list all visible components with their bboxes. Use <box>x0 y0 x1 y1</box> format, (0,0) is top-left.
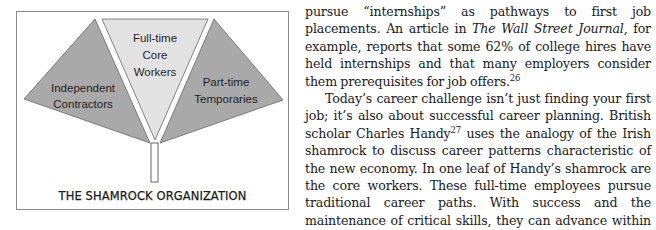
leaf-label-independent: Independent <box>51 82 116 94</box>
paragraph-internships: pursue “internships” as pathways to firs… <box>305 3 651 90</box>
leaf-label-part-time: Part-time <box>203 76 250 88</box>
leaf-label-contractors: Contractors <box>53 98 113 110</box>
leaf-label-workers: Workers <box>134 66 177 78</box>
footnote-26[interactable]: 26 <box>510 73 521 83</box>
paragraph-career-planning: Today’s career challenge isn’t just find… <box>305 90 651 230</box>
shamrock-stem <box>151 143 158 182</box>
footnote-27[interactable]: 27 <box>451 125 462 135</box>
publication-title: The Wall Street Journal <box>472 21 624 36</box>
leaf-label-temporaries: Temporaries <box>194 93 258 105</box>
article-body: pursue “internships” as pathways to firs… <box>305 3 651 230</box>
leaf-label-core: Core <box>143 49 168 61</box>
leaf-label-full-time: Full-time <box>133 32 177 44</box>
para2-text-end: uses the analogy of the Irish shamrock t… <box>305 126 651 230</box>
figure-caption: THE SHAMROCK ORGANIZATION <box>16 189 289 203</box>
